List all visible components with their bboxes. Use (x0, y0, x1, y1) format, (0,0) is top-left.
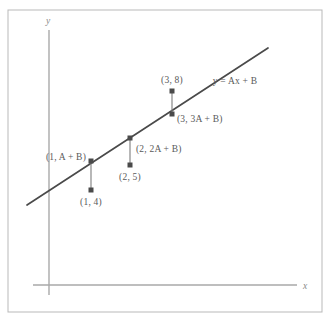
line-point-3 (170, 112, 175, 117)
line-point-3-label: (3, 3A + B) (177, 114, 223, 125)
line-point-1 (89, 159, 94, 164)
data-point-1-label: (1, 4) (80, 197, 102, 208)
data-point-2-label: (2, 5) (119, 172, 141, 183)
line-point-2 (128, 136, 133, 141)
y-axis-label: y (45, 16, 51, 26)
figure-container: y x y = Ax + B (1, A + B) (2, 2A + B) (3… (0, 0, 336, 327)
least-squares-figure: y x y = Ax + B (1, A + B) (2, 2A + B) (3… (0, 0, 336, 327)
data-point-3 (170, 89, 175, 94)
line-point-2-label: (2, 2A + B) (136, 144, 182, 155)
data-point-3-label: (3, 8) (161, 75, 183, 86)
data-point-2 (128, 163, 133, 168)
fit-line-equation-label: y = Ax + B (213, 76, 257, 86)
data-point-1 (89, 188, 94, 193)
line-point-1-label: (1, A + B) (46, 152, 86, 163)
x-axis-label: x (302, 281, 308, 291)
